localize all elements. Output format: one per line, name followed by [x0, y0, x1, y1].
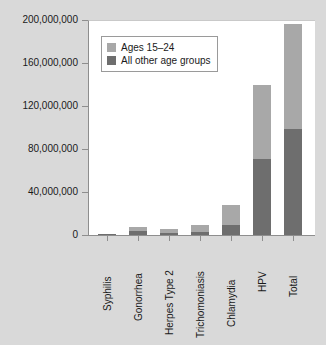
stacked-bar-chart: 200,000,000 160,000,000 120,000,000 80,0…	[0, 0, 326, 345]
legend-item-all-other-age-groups[interactable]: All other age groups	[107, 54, 211, 67]
bar-segment-all-other-ages	[160, 233, 178, 235]
x-axis-label-total: Total	[289, 276, 299, 297]
legend-label-all-other-age-groups: All other age groups	[121, 56, 211, 66]
y-axis: 200,000,000 160,000,000 120,000,000 80,0…	[0, 0, 78, 345]
x-tick-mark-herpes-type-2	[169, 236, 170, 241]
bar-gonorrhea[interactable]	[129, 227, 147, 235]
x-axis-label-chlamydia: Chlamydia	[227, 280, 237, 327]
bar-segment-all-other-ages	[253, 159, 271, 235]
bar-segment-all-other-ages	[284, 129, 302, 235]
bar-segment-all-other-ages	[98, 234, 116, 235]
x-axis-label-trichomoniasis: Trichomoniasis	[196, 271, 206, 338]
bar-chlamydia[interactable]	[222, 205, 240, 235]
y-tick-label-160m: 160,000,000	[2, 58, 78, 68]
y-tick-label-80m: 80,000,000	[2, 144, 78, 154]
bar-segment-all-other-ages	[129, 231, 147, 235]
x-axis-label-herpes-type-2: Herpes Type 2	[165, 270, 175, 335]
bar-segment-all-other-ages	[222, 225, 240, 235]
y-tick-label-0: 0	[2, 230, 78, 240]
x-axis-label-gonorrhea: Gonorrhea	[134, 273, 144, 321]
x-axis-line	[88, 235, 315, 236]
x-tick-mark-trichomoniasis	[200, 236, 201, 241]
x-tick-mark-gonorrhea	[138, 236, 139, 241]
legend-item-ages-15-24[interactable]: Ages 15–24	[107, 41, 211, 54]
legend-swatch-icon-ages-15-24	[107, 43, 116, 52]
bar-hpv[interactable]	[253, 85, 271, 236]
y-tick-label-200m: 200,000,000	[2, 15, 78, 25]
bar-segment-all-other-ages	[191, 232, 209, 235]
x-axis-label-hpv: HPV	[258, 271, 268, 292]
y-tick-label-120m: 120,000,000	[2, 101, 78, 111]
x-tick-mark-syphilis	[107, 236, 108, 241]
x-tick-mark-chlamydia	[231, 236, 232, 241]
bar-total[interactable]	[284, 24, 302, 235]
bar-syphilis[interactable]	[98, 234, 116, 235]
bar-trichomoniasis[interactable]	[191, 225, 209, 235]
y-tick-label-40m: 40,000,000	[2, 187, 78, 197]
bar-segment-ages-15-24	[253, 85, 271, 160]
x-axis-label-syphilis: Syphilis	[103, 277, 113, 311]
legend-label-ages-15-24: Ages 15–24	[121, 43, 174, 53]
legend: Ages 15–24 All other age groups	[101, 36, 218, 72]
bar-herpes-type-2[interactable]	[160, 229, 178, 235]
bar-segment-ages-15-24	[284, 24, 302, 128]
x-tick-mark-hpv	[262, 236, 263, 241]
legend-swatch-icon-all-other-age-groups	[107, 56, 116, 65]
bar-segment-ages-15-24	[222, 205, 240, 225]
x-tick-mark-total	[293, 236, 294, 241]
